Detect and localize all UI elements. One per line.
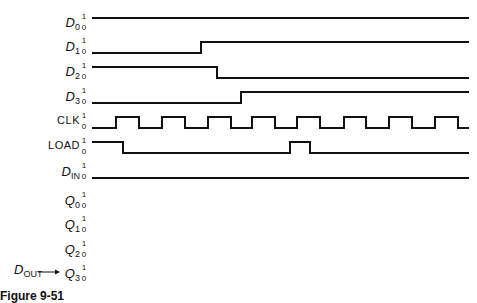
signal-label-din: DIN bbox=[62, 164, 80, 181]
waveform-d3 bbox=[92, 92, 469, 103]
level-high-marker: 1 bbox=[80, 239, 88, 248]
signal-label-main: D bbox=[66, 64, 75, 79]
signal-label-main: Q bbox=[65, 266, 75, 281]
level-low-marker: 0 bbox=[80, 250, 88, 259]
level-high-marker: 1 bbox=[80, 136, 88, 145]
level-high-marker: 1 bbox=[80, 86, 88, 95]
figure-caption: Figure 9-51 bbox=[0, 289, 64, 303]
arrowhead-icon bbox=[55, 270, 60, 275]
signal-label-load: LOAD bbox=[48, 139, 80, 151]
signal-label-d1: D1 bbox=[66, 39, 80, 56]
signal-label-sub: IN bbox=[71, 171, 80, 181]
level-low-marker: 0 bbox=[80, 97, 88, 106]
signal-label-d3: D3 bbox=[66, 89, 80, 106]
waveform-load bbox=[92, 142, 469, 153]
signal-label-main: D bbox=[66, 89, 75, 104]
signal-label-main: LOAD bbox=[48, 139, 80, 151]
signal-label-q1: Q1 bbox=[65, 217, 80, 234]
level-low-marker: 0 bbox=[80, 23, 88, 32]
level-high-marker: 1 bbox=[80, 161, 88, 170]
waveform-d2 bbox=[92, 67, 469, 78]
level-low-marker: 0 bbox=[80, 147, 88, 156]
level-low-marker: 0 bbox=[80, 201, 88, 210]
level-low-marker: 0 bbox=[80, 274, 88, 283]
level-high-marker: 1 bbox=[80, 61, 88, 70]
signal-label-main: Q bbox=[65, 242, 75, 257]
dout-label: DOUT bbox=[14, 262, 42, 279]
level-low-marker: 0 bbox=[80, 72, 88, 81]
signal-label-d2: D2 bbox=[66, 64, 80, 81]
signal-label-main: Q bbox=[65, 193, 75, 208]
signal-label-main: D bbox=[66, 39, 75, 54]
signal-label-q2: Q2 bbox=[65, 242, 80, 259]
signal-label-main: D bbox=[62, 164, 71, 179]
dout-label-sub: OUT bbox=[23, 269, 42, 279]
level-high-marker: 1 bbox=[80, 12, 88, 21]
signal-label-q0: Q0 bbox=[65, 193, 80, 210]
level-low-marker: 0 bbox=[80, 225, 88, 234]
level-low-marker: 0 bbox=[80, 122, 88, 131]
level-high-marker: 1 bbox=[80, 190, 88, 199]
signal-label-q3: Q3 bbox=[65, 266, 80, 283]
level-high-marker: 1 bbox=[80, 111, 88, 120]
level-high-marker: 1 bbox=[80, 263, 88, 272]
waveform-clk bbox=[92, 117, 469, 128]
waveform-d1 bbox=[92, 42, 469, 53]
level-high-marker: 1 bbox=[80, 214, 88, 223]
dout-label-main: D bbox=[14, 262, 23, 277]
level-high-marker: 1 bbox=[80, 36, 88, 45]
signal-label-main: D bbox=[66, 15, 75, 30]
level-low-marker: 0 bbox=[80, 172, 88, 181]
signal-label-main: Q bbox=[65, 217, 75, 232]
signal-label-clk: CLK bbox=[57, 114, 80, 126]
signal-label-d0: D0 bbox=[66, 15, 80, 32]
signal-label-main: CLK bbox=[57, 114, 80, 126]
level-low-marker: 0 bbox=[80, 47, 88, 56]
